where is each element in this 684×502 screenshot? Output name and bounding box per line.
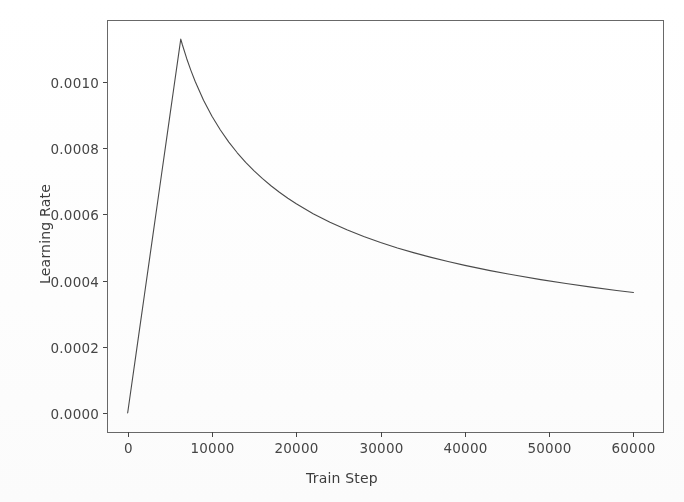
y-tick-label: 0.0008 [11,141,99,157]
x-axis-label: Train Step [0,470,684,486]
x-tick-label: 50000 [528,440,572,456]
line-chart-plot [0,0,684,502]
data-series-group [128,39,634,413]
x-tick-label: 10000 [191,440,235,456]
chart-figure: 0100002000030000400005000060000 0.00000.… [0,0,684,502]
y-tick-label: 0.0006 [11,207,99,223]
x-tick-label: 30000 [360,440,404,456]
y-axis-label: Learning Rate [37,134,53,334]
x-tick-label: 60000 [612,440,656,456]
y-tick-label: 0.0000 [11,406,99,422]
x-tick-label: 20000 [275,440,319,456]
series-line [128,39,634,413]
y-axis-ticks [103,83,108,414]
y-tick-label: 0.0002 [11,340,99,356]
x-tick-label: 40000 [444,440,488,456]
y-tick-label: 0.0010 [11,75,99,91]
x-tick-label: 0 [124,440,133,456]
y-tick-label: 0.0004 [11,274,99,290]
axes-spines [108,21,664,433]
